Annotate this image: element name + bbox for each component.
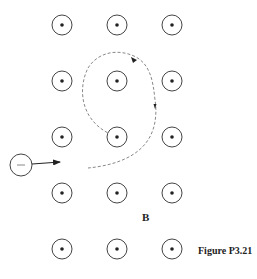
field-dot-icon <box>60 79 64 83</box>
field-dot-icon <box>60 23 64 27</box>
field-dot-icon <box>115 191 119 195</box>
field-dot-icon <box>115 135 119 139</box>
field-dot-icon <box>170 79 174 83</box>
trajectory-arrow-icon <box>131 57 137 63</box>
field-dot-icon <box>115 247 119 251</box>
magnetic-field-grid <box>52 15 182 259</box>
velocity-arrow-icon <box>32 162 60 164</box>
field-dot-icon <box>60 135 64 139</box>
field-dot-icon <box>115 79 119 83</box>
field-dot-icon <box>170 135 174 139</box>
figure-diagram: B Figure P3.21 <box>0 0 257 279</box>
field-label: B <box>142 211 150 223</box>
field-dot-icon <box>170 23 174 27</box>
field-dot-icon <box>170 191 174 195</box>
field-dot-icon <box>115 23 119 27</box>
field-dot-icon <box>170 247 174 251</box>
figure-caption: Figure P3.21 <box>198 245 252 256</box>
field-dot-icon <box>60 191 64 195</box>
field-dot-icon <box>60 247 64 251</box>
electron-trajectory <box>83 52 156 168</box>
